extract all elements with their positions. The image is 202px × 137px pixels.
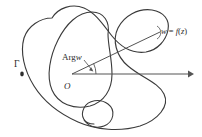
label-origin: O (64, 82, 71, 91)
label-arg-w: Argw (62, 53, 82, 62)
small-loop-icon (82, 101, 112, 128)
small-loop-group (82, 101, 112, 128)
ray-to-w-group (72, 32, 160, 74)
reference-axis-group (72, 71, 194, 78)
label-arg-variable: w (76, 52, 82, 62)
label-arg-prefix: Arg (62, 52, 76, 62)
diagram-svg (0, 0, 202, 137)
label-equals-sign: = (167, 26, 176, 36)
ray-origin-to-w (72, 32, 160, 74)
label-paren-close: ) (184, 26, 187, 36)
gamma-tick-dot (20, 72, 24, 77)
angle-arc-indicator (94, 64, 96, 75)
label-w-equals-f-z: w = f(z) (161, 27, 187, 36)
gamma-tick-group (20, 72, 24, 77)
arg-leader-arrowhead (89, 67, 93, 71)
arrow-right-icon (188, 71, 194, 78)
label-gamma: Γ (14, 60, 20, 70)
figure-canvas: Γ Argw O w = f(z) (0, 0, 202, 137)
